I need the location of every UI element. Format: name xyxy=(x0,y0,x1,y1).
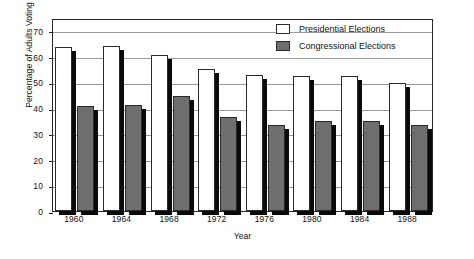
y-axis-tick xyxy=(49,187,53,188)
x-axis-tick-label: 1964 xyxy=(112,214,131,224)
bar-face xyxy=(173,96,190,211)
y-axis-tick xyxy=(49,58,53,59)
x-axis-tick-label: 1980 xyxy=(302,214,321,224)
y-axis-tick-label: 10 xyxy=(33,181,43,191)
x-axis-tick-labels: 19601964196819721976198019841988 xyxy=(52,214,433,228)
bar-face xyxy=(151,55,168,211)
x-axis-tick-label: 1984 xyxy=(350,214,369,224)
bar-face xyxy=(55,47,72,211)
chart-legend: Presidential Elections Congressional Ele… xyxy=(276,20,396,54)
x-axis-title: Year xyxy=(52,231,433,241)
bar-face xyxy=(77,106,94,212)
gray-square-icon xyxy=(276,41,290,51)
bar-face xyxy=(103,46,120,211)
bar-congressional-1960 xyxy=(77,106,94,212)
bar-congressional-1980 xyxy=(315,121,332,211)
legend-label-congressional: Congressional Elections xyxy=(299,41,396,51)
bar-congressional-1984 xyxy=(363,121,380,211)
y-axis-tick-label: 60 xyxy=(33,53,43,63)
y-axis-tick-label: 40 xyxy=(33,104,43,114)
bar-congressional-1968 xyxy=(173,96,190,211)
legend-item-presidential: Presidential Elections xyxy=(276,20,396,37)
x-axis-tick-label: 1972 xyxy=(207,214,226,224)
bar-congressional-1964 xyxy=(125,105,142,211)
chart-container: Percentage of Adults Voting 010203040506… xyxy=(0,0,474,259)
bar-presidential-1968 xyxy=(151,55,168,211)
y-axis-tick-label: 30 xyxy=(33,130,43,140)
white-square-icon xyxy=(276,24,290,34)
legend-label-presidential: Presidential Elections xyxy=(299,24,385,34)
x-axis-tick-label: 1988 xyxy=(398,214,417,224)
y-axis-tick-label: 0 xyxy=(38,207,43,217)
y-axis-tick-label: 70 xyxy=(33,27,43,37)
bar-presidential-1984 xyxy=(341,76,358,211)
bar-face xyxy=(341,76,358,211)
bar-face xyxy=(198,69,215,211)
bar-presidential-1972 xyxy=(198,69,215,211)
bar-presidential-1960 xyxy=(55,47,72,211)
legend-item-congressional: Congressional Elections xyxy=(276,37,396,54)
bar-presidential-1988 xyxy=(389,83,406,211)
bar-face xyxy=(246,75,263,211)
x-axis-tick-label: 1960 xyxy=(64,214,83,224)
y-axis-tick-labels: 010203040506070 xyxy=(0,19,50,212)
y-axis-tick xyxy=(49,135,53,136)
bar-congressional-1988 xyxy=(411,125,428,211)
bar-face xyxy=(125,105,142,211)
bar-presidential-1964 xyxy=(103,46,120,211)
y-axis-tick-label: 20 xyxy=(33,156,43,166)
bar-presidential-1980 xyxy=(293,76,310,211)
y-axis-tick xyxy=(49,84,53,85)
bar-face xyxy=(411,125,428,211)
y-axis-tick xyxy=(49,161,53,162)
bar-presidential-1976 xyxy=(246,75,263,211)
bar-face xyxy=(268,125,285,211)
y-axis-tick-label: 50 xyxy=(33,78,43,88)
bar-face xyxy=(293,76,310,211)
bar-face xyxy=(220,117,237,211)
bar-face xyxy=(389,83,406,211)
y-axis-tick xyxy=(49,110,53,111)
bar-congressional-1972 xyxy=(220,117,237,211)
x-axis-tick-label: 1968 xyxy=(159,214,178,224)
bar-congressional-1976 xyxy=(268,125,285,211)
y-axis-tick xyxy=(49,32,53,33)
x-axis-tick-label: 1976 xyxy=(255,214,274,224)
bar-face xyxy=(315,121,332,211)
bar-face xyxy=(363,121,380,211)
